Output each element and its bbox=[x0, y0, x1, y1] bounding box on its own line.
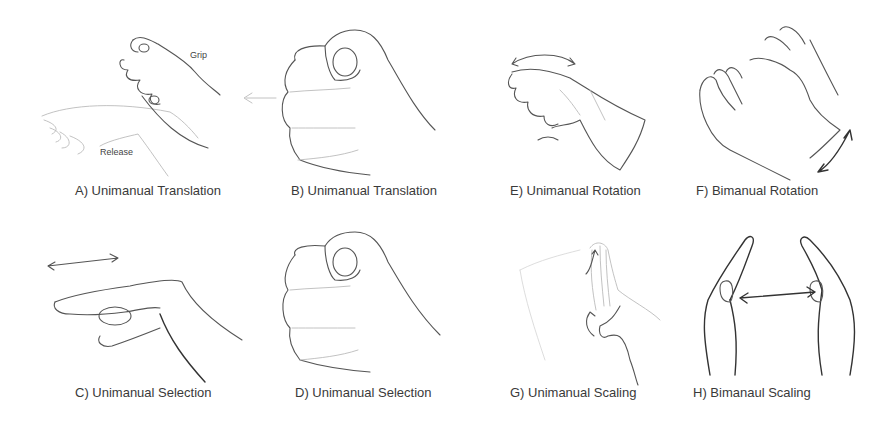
caption-h: H) Bimanaul Scaling bbox=[693, 385, 811, 400]
panel-g: G) Unimanual Scaling bbox=[500, 210, 650, 420]
panel-d: D) Unimanual Selection bbox=[250, 210, 450, 420]
panel-c: C) Unimanual Selection bbox=[0, 210, 250, 420]
two-hands-rotation-icon bbox=[690, 0, 869, 180]
rotating-hand-icon bbox=[500, 0, 650, 180]
pointing-hand-with-double-arrow-icon bbox=[0, 210, 250, 390]
panel-f: F) Bimanual Rotation bbox=[690, 0, 869, 200]
caption-e: E) Unimanual Rotation bbox=[510, 183, 641, 198]
caption-c: C) Unimanual Selection bbox=[75, 385, 212, 400]
panel-h: H) Bimanaul Scaling bbox=[690, 210, 869, 420]
caption-b: B) Unimanual Translation bbox=[291, 183, 437, 198]
fist-with-arrow-icon bbox=[230, 0, 450, 180]
two-hands-scaling-icon bbox=[690, 210, 869, 390]
fist-icon bbox=[250, 210, 450, 390]
grip-label: Grip bbox=[190, 50, 207, 60]
caption-f: F) Bimanual Rotation bbox=[696, 183, 818, 198]
caption-g: G) Unimanual Scaling bbox=[510, 385, 636, 400]
panel-e: E) Unimanual Rotation bbox=[500, 0, 650, 200]
release-label: Release bbox=[100, 147, 133, 157]
caption-d: D) Unimanual Selection bbox=[295, 385, 432, 400]
panel-b: B) Unimanual Translation bbox=[230, 0, 450, 200]
panel-a: Grip Release A) Unimanual Translation bbox=[0, 0, 230, 200]
scaling-hand-icon bbox=[500, 210, 650, 390]
caption-a: A) Unimanual Translation bbox=[75, 183, 221, 198]
